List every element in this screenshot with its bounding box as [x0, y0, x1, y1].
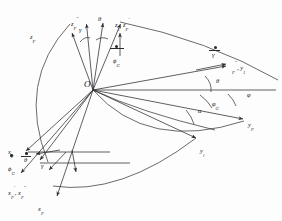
- label-theta-dot-left: θ: [24, 157, 27, 164]
- overbar-theta-left: [21, 156, 31, 157]
- label-theta-top: θ: [98, 16, 101, 23]
- label-x-F-left: xF: [8, 141, 14, 160]
- angle-arc-theta-top: [96, 38, 108, 40]
- label-alpha: α: [198, 108, 201, 115]
- label-x-F-prime-dblprime: xF′, xF″: [8, 182, 26, 201]
- arc-top-right: [120, 22, 278, 80]
- label-y-l-sub: l: [203, 153, 204, 158]
- figure-canvas: zF zF″ γ θ z1, zF′ ϕG γ F″, y1 θ φG φ α …: [0, 0, 282, 221]
- label-y-l: yl: [200, 140, 204, 159]
- label-phi-dot-G-left-sub: G: [11, 171, 14, 176]
- label-phi-dot-G-top: ϕG: [113, 50, 120, 69]
- label-z-F: zF: [30, 26, 35, 45]
- ray-yF-dblprime-y1: [93, 66, 226, 90]
- label-z-F-dblprime: zF″: [71, 13, 78, 32]
- arrow-gamma-left: [72, 150, 76, 172]
- label-y-F-sub: F: [251, 127, 254, 132]
- axis-rays: [21, 23, 276, 196]
- ray-x-aux: [40, 90, 93, 160]
- diagram-svg: [0, 0, 282, 221]
- label-x-F-bottom-sub: F: [41, 211, 44, 216]
- label-origin: O: [84, 80, 91, 89]
- ray-y-l: [93, 90, 196, 138]
- ray-z-theta: [93, 23, 103, 90]
- angle-arc-phi: [228, 94, 236, 106]
- label-xFd-sub: F: [21, 195, 24, 200]
- label-phi: φ: [247, 92, 251, 99]
- overdot-phi-G-left: [10, 154, 13, 157]
- arrow-theta-dot-left: [49, 152, 66, 170]
- label-phi-dot-G-top-sub: G: [116, 63, 119, 68]
- overbar-phi-G-top: [110, 48, 124, 49]
- label-x-F-bottom: xF: [38, 198, 44, 217]
- label-phi-G: φG: [212, 93, 219, 112]
- label-gamma-top: γ: [79, 27, 82, 34]
- label-zFprime-sup: ′: [128, 17, 129, 22]
- label-gamma-dot: γ: [212, 52, 215, 59]
- label-y-F-dblprime-y1: F″, y1: [232, 57, 245, 76]
- label-yF-dbl-sub: F: [232, 70, 235, 75]
- ray-x-F-prime: [21, 90, 93, 173]
- label-y-F: yF: [248, 114, 254, 133]
- overbar-gamma: [209, 50, 220, 51]
- overdot-theta-left: [25, 152, 28, 155]
- angle-arc-alpha: [186, 110, 194, 124]
- label-theta-right: θ: [216, 78, 219, 85]
- label-xFp-sub: F: [11, 195, 14, 200]
- label-phi-dot-G-left: ϕG: [8, 158, 15, 177]
- angle-arc-phi-G: [200, 95, 212, 108]
- label-phi-G-sub: G: [216, 106, 219, 111]
- angle-arc-theta-right: [205, 76, 211, 92]
- label-z-F-dbl-sup: ″: [76, 16, 78, 21]
- label-gamma-left: γ: [41, 163, 44, 170]
- label-xFd-sup: ″: [24, 185, 26, 190]
- label-z-F-sub: F: [33, 39, 36, 44]
- label-z1-zFprime: z1, zF′: [115, 14, 130, 33]
- arc-left-meridian: [36, 24, 70, 162]
- ray-y-F: [93, 90, 243, 119]
- overdot-gamma: [214, 46, 217, 49]
- label-y1-sub: 1: [243, 70, 245, 75]
- label-zFprime-sub: F: [126, 27, 129, 32]
- label-z-F-dbl-sub: F: [74, 26, 77, 31]
